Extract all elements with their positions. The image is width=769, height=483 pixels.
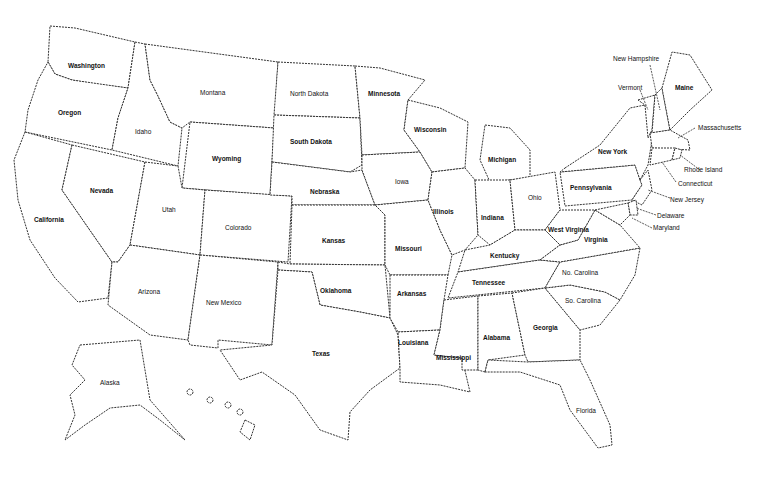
state-michigan[interactable] bbox=[480, 125, 530, 182]
label-new-mexico: New Mexico bbox=[206, 299, 242, 306]
us-map: Washington Oregon Idaho Montana Wyoming … bbox=[0, 0, 769, 483]
label-oklahoma: Oklahoma bbox=[320, 287, 352, 294]
label-iowa: Iowa bbox=[395, 178, 409, 185]
label-arizona: Arizona bbox=[138, 288, 160, 295]
label-mississippi: Mississippi bbox=[436, 354, 471, 362]
label-kentucky: Kentucky bbox=[490, 252, 520, 260]
label-alabama: Alabama bbox=[483, 334, 510, 341]
state-alaska[interactable] bbox=[65, 340, 185, 440]
label-idaho: Idaho bbox=[135, 128, 152, 135]
label-florida: Florida bbox=[576, 407, 596, 414]
label-connecticut: Connecticut bbox=[678, 180, 713, 187]
label-wisconsin: Wisconsin bbox=[414, 126, 446, 133]
state-maine[interactable] bbox=[662, 52, 712, 130]
label-vermont: Vermont bbox=[618, 84, 642, 91]
label-georgia: Georgia bbox=[533, 324, 558, 332]
label-new-jersey: New Jersey bbox=[670, 196, 705, 204]
label-texas: Texas bbox=[312, 350, 330, 357]
label-washington: Washington bbox=[68, 62, 105, 70]
label-utah: Utah bbox=[162, 206, 176, 213]
label-south-dakota: South Dakota bbox=[290, 138, 332, 145]
label-kansas: Kansas bbox=[322, 237, 346, 244]
label-ohio: Ohio bbox=[528, 194, 542, 201]
label-colorado: Colorado bbox=[225, 224, 252, 231]
label-arkansas: Arkansas bbox=[397, 290, 427, 297]
label-illinois: Illinois bbox=[433, 208, 454, 215]
label-north-dakota: North Dakota bbox=[290, 90, 329, 97]
label-louisiana: Louisiana bbox=[398, 339, 429, 346]
state-arkansas[interactable] bbox=[390, 275, 448, 332]
label-tennessee: Tennessee bbox=[472, 279, 506, 286]
label-nevada: Nevada bbox=[90, 187, 114, 194]
label-west-virginia: West Virginia bbox=[548, 226, 589, 234]
label-california: California bbox=[34, 216, 64, 223]
state-massachusetts[interactable] bbox=[650, 130, 690, 150]
label-minnesota: Minnesota bbox=[368, 90, 401, 97]
label-nebraska: Nebraska bbox=[310, 188, 340, 195]
label-north-carolina: No. Carolina bbox=[562, 269, 599, 276]
label-maine: Maine bbox=[675, 84, 694, 91]
label-rhode-island: Rhode Island bbox=[684, 166, 723, 173]
label-montana: Montana bbox=[200, 89, 226, 96]
state-hawaii[interactable] bbox=[187, 389, 255, 440]
label-new-hampshire: New Hampshire bbox=[613, 55, 660, 63]
label-south-carolina: So. Carolina bbox=[565, 297, 601, 304]
label-maryland: Maryland bbox=[653, 224, 680, 232]
label-massachusetts: Massachusetts bbox=[698, 124, 742, 131]
label-alaska: Alaska bbox=[100, 379, 120, 386]
label-delaware: Delaware bbox=[657, 212, 685, 219]
label-indiana: Indiana bbox=[481, 214, 504, 221]
state-kansas[interactable] bbox=[290, 205, 385, 265]
label-oregon: Oregon bbox=[58, 109, 81, 117]
state-florida[interactable] bbox=[485, 360, 612, 448]
label-new-york: New York bbox=[598, 148, 627, 155]
label-michigan: Michigan bbox=[488, 156, 516, 164]
label-wyoming: Wyoming bbox=[212, 155, 241, 163]
state-connecticut[interactable] bbox=[650, 148, 675, 165]
label-virginia: Virginia bbox=[584, 236, 608, 244]
label-missouri: Missouri bbox=[395, 245, 422, 252]
label-pennsylvania: Pennsylvania bbox=[570, 184, 612, 192]
